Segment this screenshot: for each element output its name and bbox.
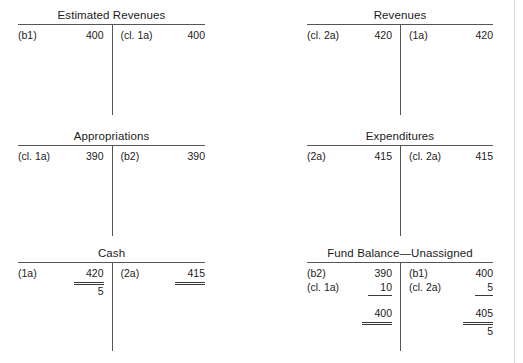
t-account-title: Fund Balance—Unassigned [307, 246, 493, 260]
ledger-total-row: 405 [409, 307, 493, 325]
t-account-credit-side: (1a) 420 [400, 25, 493, 103]
t-account-body: (b1) 400 (cl. 1a) 400 [18, 25, 205, 103]
t-account-credit-side: (cl. 1a) 400 [112, 25, 206, 103]
t-account-debit-side: (b2) 390 (cl. 1a) 10 400 [307, 263, 400, 341]
t-account-divider [400, 263, 401, 351]
entry-amount: 415 [175, 267, 205, 285]
entry-reference: (b2) [121, 150, 140, 164]
t-account-revenues: Revenues (cl. 2a) 420 (1a) 420 [307, 8, 493, 103]
t-account-fund-balance-unassigned: Fund Balance—Unassigned (b2) 390 (cl. 1a… [307, 246, 493, 341]
t-account-title: Expenditures [307, 129, 493, 143]
ledger-entry: (cl. 1a) 400 [121, 29, 206, 43]
entry-reference: (cl. 2a) [409, 281, 441, 295]
entry-amount: 400 [187, 29, 205, 43]
ledger-entry: (1a) 420 [18, 267, 104, 285]
entry-amount: 390 [86, 150, 104, 164]
ledger-entry: (b1) 400 [18, 29, 104, 43]
entry-reference: (cl. 2a) [409, 150, 441, 164]
ledger-entry: (b1) 400 [409, 267, 493, 281]
t-account-debit-side: (2a) 415 [307, 146, 400, 224]
entry-reference: (b2) [307, 267, 326, 281]
t-account-body: (b2) 390 (cl. 1a) 10 400 (b1) 400 (cl. 2… [307, 263, 493, 341]
ledger-entry: (cl. 2a) 5 [409, 281, 493, 297]
entry-reference: (1a) [409, 29, 428, 43]
t-account-title: Estimated Revenues [18, 8, 205, 22]
t-account-credit-side: (2a) 415 [112, 263, 206, 341]
t-account-debit-side: (cl. 1a) 390 [18, 146, 112, 224]
t-account-credit-side: (b2) 390 [112, 146, 206, 224]
entry-amount: 415 [475, 150, 493, 164]
entry-reference: (1a) [18, 267, 37, 281]
t-account-body: (cl. 1a) 390 (b2) 390 [18, 146, 205, 224]
t-account-credit-side: (cl. 2a) 415 [400, 146, 493, 224]
ledger-entry: (1a) 420 [409, 29, 493, 43]
entry-amount: 420 [475, 29, 493, 43]
t-account-estimated-revenues: Estimated Revenues (b1) 400 (cl. 1a) 400 [18, 8, 205, 103]
ledger-entry: (cl. 1a) 10 [307, 281, 392, 297]
entry-amount: 10 [368, 281, 392, 297]
t-account-title: Appropriations [18, 129, 205, 143]
entry-amount: 390 [187, 150, 205, 164]
account-balance: 5 [475, 325, 493, 339]
t-account-divider [112, 25, 113, 115]
subtotal-spacer [409, 296, 493, 307]
entry-reference: (cl. 1a) [121, 29, 153, 43]
t-account-debit-side: (cl. 2a) 420 [307, 25, 400, 103]
t-account-divider [400, 146, 401, 236]
entry-reference: (cl. 1a) [307, 281, 339, 295]
t-account-body: (1a) 420 5 (2a) 415 [18, 263, 205, 341]
t-account-credit-side: (b1) 400 (cl. 2a) 5 405 5 [400, 263, 493, 341]
ledger-total-row: 400 [307, 307, 392, 325]
t-account-divider [400, 25, 401, 115]
entry-reference: (2a) [307, 150, 326, 164]
t-account-divider [112, 263, 113, 351]
ledger-entry: (2a) 415 [121, 267, 206, 285]
ledger-balance-row: 5 [18, 285, 104, 299]
account-balance: 5 [86, 285, 104, 299]
t-account-expenditures: Expenditures (2a) 415 (cl. 2a) 415 [307, 129, 493, 224]
t-account-body: (2a) 415 (cl. 2a) 415 [307, 146, 493, 224]
entry-reference: (cl. 1a) [18, 150, 50, 164]
entry-reference: (2a) [121, 267, 140, 281]
subtotal-spacer [307, 296, 392, 307]
entry-amount: 415 [374, 150, 392, 164]
t-account-debit-side: (b1) 400 [18, 25, 112, 103]
entry-amount: 420 [374, 29, 392, 43]
t-account-appropriations: Appropriations (cl. 1a) 390 (b2) 390 [18, 129, 205, 224]
entry-reference: (cl. 2a) [307, 29, 339, 43]
ledger-entry: (cl. 2a) 420 [307, 29, 392, 43]
t-account-title: Revenues [307, 8, 493, 22]
entry-amount: 400 [86, 29, 104, 43]
t-account-cash: Cash (1a) 420 5 (2a) 415 [18, 246, 205, 341]
ledger-balance-row: 5 [409, 325, 493, 339]
t-account-title: Cash [18, 246, 205, 260]
account-total: 400 [362, 307, 392, 325]
t-account-body: (cl. 2a) 420 (1a) 420 [307, 25, 493, 103]
ledger-entry: (cl. 2a) 415 [409, 150, 493, 164]
ledger-entry: (2a) 415 [307, 150, 392, 164]
ledger-entry: (b2) 390 [307, 267, 392, 281]
entry-reference: (b1) [18, 29, 37, 43]
account-total: 405 [463, 307, 493, 325]
entry-amount: 5 [475, 281, 493, 297]
ledger-entry: (b2) 390 [121, 150, 206, 164]
entry-amount: 390 [362, 267, 392, 281]
scan-edge-line [514, 0, 515, 363]
t-account-debit-side: (1a) 420 5 [18, 263, 112, 341]
entry-reference: (b1) [409, 267, 428, 281]
ledger-entry: (cl. 1a) 390 [18, 150, 104, 164]
entry-amount: 420 [74, 267, 104, 285]
t-account-divider [112, 146, 113, 236]
entry-amount: 400 [463, 267, 493, 281]
